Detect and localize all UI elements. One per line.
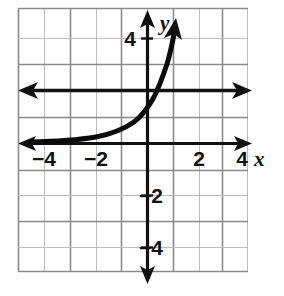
graph-figure: −4 −2 2 4 4 −2 −4 y x	[0, 0, 284, 296]
x-axis-name: x	[253, 147, 265, 171]
y-tick-label-4: 4	[124, 27, 136, 50]
y-tick-label-minus4: −4	[139, 236, 163, 259]
x-tick-label-4: 4	[236, 147, 248, 170]
x-tick-label-minus2: −2	[84, 147, 108, 170]
coordinate-plane-svg: −4 −2 2 4 4 −2 −4 y x	[0, 0, 284, 296]
x-tick-label-2: 2	[193, 147, 205, 170]
x-tick-label-minus4: −4	[32, 147, 56, 170]
y-tick-label-minus2: −2	[139, 184, 163, 207]
